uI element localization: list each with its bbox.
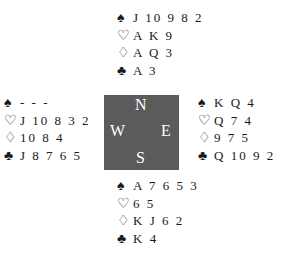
compass-east: E bbox=[161, 122, 171, 140]
east-hand: ♠K Q 4 ♡Q 7 4 ♢9 7 5 ♣Q 10 9 2 bbox=[198, 94, 275, 164]
diamond-icon: ♢ bbox=[117, 212, 133, 230]
diamond-icon: ♢ bbox=[117, 44, 133, 62]
east-hearts: ♡Q 7 4 bbox=[198, 112, 275, 130]
club-icon: ♣ bbox=[198, 147, 214, 165]
north-clubs: ♣A 3 bbox=[117, 62, 204, 80]
diamond-icon: ♢ bbox=[4, 129, 20, 147]
diamond-icon: ♢ bbox=[198, 129, 214, 147]
east-clubs: ♣Q 10 9 2 bbox=[198, 147, 275, 165]
south-hearts: ♡6 5 bbox=[117, 195, 199, 213]
spade-icon: ♠ bbox=[117, 177, 133, 195]
north-hand: ♠J 10 9 8 2 ♡A K 9 ♢A Q 3 ♣A 3 bbox=[117, 9, 204, 79]
north-diamonds: ♢A Q 3 bbox=[117, 44, 204, 62]
club-icon: ♣ bbox=[117, 62, 133, 80]
spade-icon: ♠ bbox=[198, 94, 214, 112]
west-spades: ♠- - - bbox=[4, 94, 91, 112]
east-diamonds: ♢9 7 5 bbox=[198, 129, 275, 147]
spade-icon: ♠ bbox=[117, 9, 133, 27]
club-icon: ♣ bbox=[117, 230, 133, 248]
south-hand: ♠A 7 6 5 3 ♡6 5 ♢K J 6 2 ♣K 4 bbox=[117, 177, 199, 247]
north-spades: ♠J 10 9 8 2 bbox=[117, 9, 204, 27]
spade-icon: ♠ bbox=[4, 94, 20, 112]
compass-west: W bbox=[110, 122, 125, 140]
west-diamonds: ♢10 8 4 bbox=[4, 129, 91, 147]
heart-icon: ♡ bbox=[4, 112, 20, 130]
south-clubs: ♣K 4 bbox=[117, 230, 199, 248]
compass-north: N bbox=[135, 96, 147, 114]
club-icon: ♣ bbox=[4, 147, 20, 165]
south-spades: ♠A 7 6 5 3 bbox=[117, 177, 199, 195]
heart-icon: ♡ bbox=[117, 27, 133, 45]
west-hearts: ♡J 10 8 3 2 bbox=[4, 112, 91, 130]
east-spades: ♠K Q 4 bbox=[198, 94, 275, 112]
west-hand: ♠- - - ♡J 10 8 3 2 ♢10 8 4 ♣J 8 7 6 5 bbox=[4, 94, 91, 164]
heart-icon: ♡ bbox=[198, 112, 214, 130]
south-diamonds: ♢K J 6 2 bbox=[117, 212, 199, 230]
north-hearts: ♡A K 9 bbox=[117, 27, 204, 45]
compass-box: N W E S bbox=[104, 95, 179, 170]
west-clubs: ♣J 8 7 6 5 bbox=[4, 147, 91, 165]
heart-icon: ♡ bbox=[117, 195, 133, 213]
compass-south: S bbox=[136, 149, 145, 167]
